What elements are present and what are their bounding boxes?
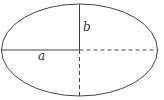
label-a: a [38,49,45,63]
ellipse-diagram: b a [0,0,164,100]
label-b: b [83,20,91,34]
